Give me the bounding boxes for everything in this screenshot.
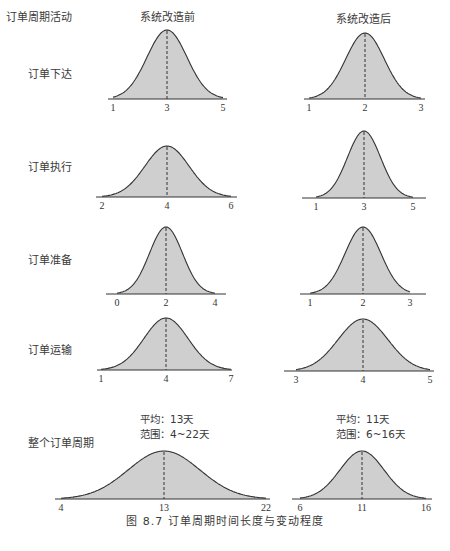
tick-label: 5 [428, 374, 433, 385]
tick-label: 1 [111, 102, 116, 113]
bell-curve-4: 024 [106, 227, 226, 308]
tick-label: 2 [100, 200, 105, 211]
tick-label: 4 [213, 297, 218, 308]
bell-curve-5: 123 [300, 227, 426, 308]
bell-curve-3: 135 [302, 131, 426, 212]
tick-label: 3 [408, 297, 413, 308]
tick-label: 3 [294, 374, 299, 385]
bell-curve-2: 246 [96, 146, 237, 211]
bell-curve-8: 41322 [55, 451, 271, 513]
tick-label: 6 [229, 200, 234, 211]
tick-label: 2 [361, 297, 366, 308]
tick-label: 7 [229, 373, 234, 384]
tick-label: 4 [164, 373, 169, 384]
tick-label: 0 [115, 297, 120, 308]
tick-label: 1 [307, 102, 312, 113]
tick-label: 1 [308, 297, 313, 308]
tick-label: 3 [419, 102, 424, 113]
tick-label: 2 [164, 297, 169, 308]
tick-label: 1 [314, 201, 319, 212]
tick-label: 4 [361, 374, 366, 385]
figure-caption: 图 8.7 订单周期时间长度与变动程度 [0, 512, 450, 528]
bell-curve-9: 61116 [292, 451, 432, 513]
tick-label: 3 [165, 102, 170, 113]
bell-curve-7: 345 [284, 319, 434, 385]
tick-label: 3 [362, 201, 367, 212]
bell-curve-6: 147 [97, 318, 234, 384]
tick-label: 5 [411, 201, 416, 212]
tick-label: 5 [221, 102, 226, 113]
distribution-curves: 1351232461350241231473454132261116 [0, 0, 450, 551]
tick-label: 2 [363, 102, 368, 113]
bell-curve-0: 135 [108, 30, 227, 113]
curve-area [310, 227, 410, 294]
tick-label: 4 [165, 200, 170, 211]
tick-label: 1 [99, 373, 104, 384]
bell-curve-1: 123 [304, 33, 425, 113]
